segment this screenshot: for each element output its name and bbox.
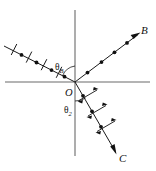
tick-mark <box>26 52 32 63</box>
incident-ray-group <box>4 44 75 82</box>
polarization-dot <box>99 125 103 129</box>
diagram-canvas: O B C θB θ2 <box>0 0 156 171</box>
refracted-ray <box>75 82 115 151</box>
origin-label: O <box>65 87 73 98</box>
polarization-dot <box>86 71 90 75</box>
polarization-dot <box>50 68 54 72</box>
tick-mark <box>11 44 17 55</box>
axes-group <box>5 10 150 156</box>
brewster-angle-label: θB <box>55 62 64 74</box>
polarization-dot <box>90 109 94 113</box>
reflected-ray <box>75 35 138 83</box>
reflected-ray-arrowhead <box>131 33 141 39</box>
reflected-ray-group <box>75 33 141 82</box>
polarization-dot <box>81 94 85 98</box>
refraction-angle-subscript: 2 <box>69 110 73 117</box>
double-arrow <box>87 103 108 119</box>
refracted-ray-group <box>75 82 117 155</box>
double-arrow <box>78 87 99 103</box>
refracted-ray-arrowhead <box>110 144 116 155</box>
brewster-angle-subscript: B <box>60 67 64 74</box>
polarization-dot <box>113 50 117 54</box>
polarization-dot <box>35 61 39 65</box>
double-arrow <box>96 118 117 134</box>
reflected-ray-label: B <box>141 24 148 36</box>
refracted-ray-label: C <box>119 152 127 164</box>
refraction-angle-label: θ2 <box>64 105 73 117</box>
labels-group: O B C θB θ2 <box>55 24 148 164</box>
polarization-dot <box>63 75 67 79</box>
tick-mark <box>41 59 47 70</box>
polarization-dot <box>100 60 104 64</box>
polarization-dot <box>20 53 24 57</box>
brewster-angle-arc <box>63 66 76 76</box>
polarization-dot <box>125 41 129 45</box>
ray-diagram-figure: O B C θB θ2 <box>0 0 156 171</box>
